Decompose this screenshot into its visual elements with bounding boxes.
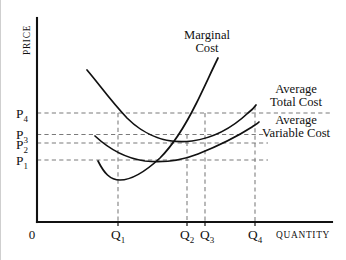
price-tick-p2-sub: 2 [23,145,28,155]
quantity-tick-q2-sub: 2 [190,235,195,245]
average-variable-cost-label: Average Variable Cost [262,113,331,140]
cost-curves-figure: PRICE QUANTITY 0 P4 P3 P2 P1 Q1 [0,0,346,260]
curve-set [87,58,259,180]
average-total-cost-label: Average Total Cost [270,82,322,109]
quantity-tick-q4-base: Q [248,227,258,242]
average-total-cost-curve [87,70,256,142]
price-tick-p2-base: P [16,137,23,152]
marginal-cost-label: Marginal Cost [184,28,230,55]
price-tick-p4: P4 [16,106,28,124]
quantity-tick-q3: Q3 [200,227,215,245]
marginal-cost-label-line2: Cost [195,41,219,55]
origin-label: 0 [29,227,36,242]
x-axis-title: QUANTITY [276,230,330,240]
quantity-tick-q2: Q2 [180,227,194,245]
quantity-tick-q4: Q4 [248,227,263,245]
quantity-tick-q1-base: Q [111,227,121,242]
price-tick-p1: P1 [16,153,28,171]
price-tick-p4-base: P [16,106,23,121]
price-tick-p1-base: P [16,153,23,168]
average-variable-cost-label-line2: Variable Cost [262,126,331,140]
average-total-cost-label-line1: Average [275,82,317,96]
quantity-tick-q3-sub: 3 [210,235,215,245]
y-axis-title: PRICE [22,25,32,55]
quantity-tick-q2-base: Q [180,227,190,242]
quantity-tick-q4-sub: 4 [258,235,263,245]
quantity-tick-q1: Q1 [111,227,125,245]
page-edge-rule [0,0,1,260]
price-tick-p3-sub: 3 [23,135,28,145]
price-tick-p4-sub: 4 [23,114,28,124]
cost-curves-chart: PRICE QUANTITY 0 P4 P3 P2 P1 Q1 [0,0,346,260]
price-tick-p1-sub: 1 [23,161,28,171]
quantity-tick-q3-base: Q [200,227,210,242]
price-tick-labels: P4 P3 P2 P1 [16,106,28,171]
marginal-cost-label-line1: Marginal [184,28,230,42]
average-variable-cost-label-line1: Average [275,113,317,127]
quantity-tick-q1-sub: 1 [121,235,126,245]
quantity-tick-labels: Q1 Q2 Q3 Q4 [111,227,263,245]
average-total-cost-label-line2: Total Cost [270,95,322,109]
